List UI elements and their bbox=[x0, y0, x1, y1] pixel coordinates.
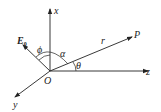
alpha-label: α bbox=[60, 48, 66, 59]
phi-label: ϕ bbox=[37, 44, 42, 55]
coordinate-diagram: x z y O E0 r P ϕ α θ bbox=[0, 0, 161, 112]
e0-label: E0 bbox=[16, 35, 27, 47]
origin-label: O bbox=[44, 75, 51, 86]
r-label: r bbox=[101, 35, 105, 46]
x-axis-label: x bbox=[53, 5, 59, 16]
diagram-canvas: x z y O E0 r P ϕ α θ bbox=[0, 0, 161, 112]
p-label: P bbox=[133, 29, 140, 40]
y-axis-label: y bbox=[12, 99, 18, 110]
phi-arc bbox=[39, 55, 50, 60]
z-axis-label: z bbox=[145, 66, 150, 77]
theta-label: θ bbox=[76, 60, 81, 71]
